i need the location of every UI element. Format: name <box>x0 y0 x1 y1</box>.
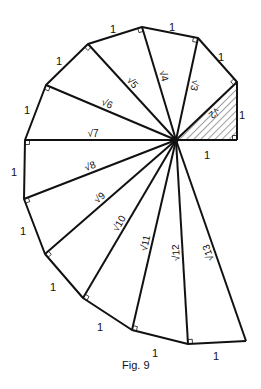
unit-length-label: 1 <box>110 23 116 35</box>
hypotenuse-line <box>132 140 176 330</box>
unit-length-label: 1 <box>24 104 30 116</box>
hypotenuse-line <box>45 140 176 254</box>
unit-length-label: 1 <box>11 166 17 178</box>
hypotenuse-line <box>46 85 176 140</box>
hypotenuse-label: √10 <box>110 213 128 233</box>
hypotenuse-line <box>142 27 176 140</box>
figure-caption: Fig. 9 <box>122 359 150 371</box>
hypotenuse-labels: √2√3√4√5√6√7√8√9√10√11√12√13 <box>83 69 222 262</box>
unit-length-label: 1 <box>218 51 224 63</box>
hypotenuse-label: √12 <box>170 244 182 262</box>
unit-length-label: 1 <box>152 347 158 359</box>
unit-length-label: 1 <box>204 149 210 161</box>
spiral-of-theodorus-figure: √2√3√4√5√6√7√8√9√10√11√12√13 11111111111… <box>0 0 261 389</box>
center-point <box>174 138 179 143</box>
hypotenuse-line <box>88 44 176 140</box>
hypotenuse-line <box>83 140 176 298</box>
unit-length-label: 1 <box>20 225 26 237</box>
hypotenuse-label: √7 <box>87 128 98 139</box>
unit-length-label: 1 <box>213 350 219 362</box>
hypotenuse-label: √3 <box>188 79 201 93</box>
unit-length-label: 1 <box>50 281 56 293</box>
unit-length-label: 1 <box>169 21 175 33</box>
unit-length-label: 1 <box>56 55 62 67</box>
unit-length-label: 1 <box>239 109 245 121</box>
unit-length-label: 1 <box>97 321 103 333</box>
